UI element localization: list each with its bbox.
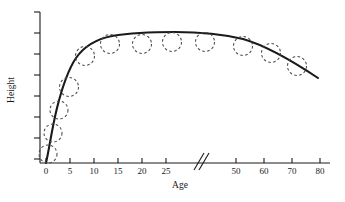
- x-axis-title: Age: [172, 180, 188, 190]
- x-tick-label-15: 15: [108, 166, 128, 177]
- x-tick-label-80: 80: [310, 166, 330, 177]
- x-tick-label-70: 70: [282, 166, 302, 177]
- x-tick-label-50: 50: [226, 166, 246, 177]
- y-axis-ticks: [34, 12, 40, 159]
- x-tick-label-20: 20: [132, 166, 152, 177]
- x-tick-label-60: 60: [254, 166, 274, 177]
- x-tick-label-5: 5: [60, 166, 80, 177]
- x-axis-ticks-left: [46, 158, 166, 163]
- scatter-circles: [39, 33, 307, 164]
- y-axis-title: Height: [6, 77, 16, 103]
- x-axis-ticks-right: [236, 158, 320, 163]
- growth-curve-figure: 0 5 10 15 20 25 50 60 70 80 Age Height: [0, 0, 345, 202]
- growth-curve: [46, 32, 318, 163]
- x-tick-label-10: 10: [84, 166, 104, 177]
- x-tick-label-0: 0: [36, 166, 56, 177]
- axis-break-icon: [194, 153, 209, 170]
- x-tick-label-25: 25: [156, 166, 176, 177]
